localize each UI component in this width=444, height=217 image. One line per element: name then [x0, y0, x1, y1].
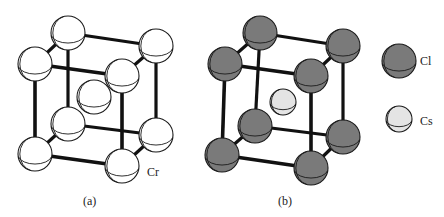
atom-cl-fbr: [294, 151, 328, 185]
atom-cl-ftr: [294, 59, 328, 93]
atom-cr-ftr: [105, 59, 139, 93]
atom-cl-bbl: [238, 109, 272, 143]
atom-cl-btr: [326, 29, 360, 63]
legend: ClCs: [382, 44, 433, 132]
atom-cr-fbl: [18, 137, 52, 171]
atom-cr-btr: [139, 29, 173, 63]
crystal-structure-figure: Cr(a) (b) ClCs: [0, 0, 444, 217]
atom-cl-ftl: [208, 47, 242, 81]
atom-cr-ftl: [18, 47, 52, 81]
atom-center-cr: [77, 80, 111, 114]
legend-label-cl: Cl: [420, 54, 432, 68]
atom-cr-bbr: [139, 118, 173, 152]
atom-center-cs: [270, 89, 296, 115]
atom-cl-fbl: [205, 138, 239, 172]
atom-cr-btl: [51, 16, 85, 50]
atom-cl-bbr: [326, 120, 360, 154]
caption-b: (b): [278, 194, 292, 208]
legend-atom-cl: [382, 44, 416, 78]
panel-b-cesium-chloride: (b): [205, 16, 360, 208]
panel-a-bcc-chromium: Cr(a): [18, 16, 173, 208]
atom-label-cr: Cr: [147, 165, 159, 179]
caption-a: (a): [83, 194, 96, 208]
atom-cr-bbl: [51, 107, 85, 141]
atom-cr-fbr: [105, 149, 139, 183]
atom-cl-btl: [243, 16, 277, 50]
legend-label-cs: Cs: [420, 114, 433, 128]
legend-atom-cs: [386, 106, 412, 132]
